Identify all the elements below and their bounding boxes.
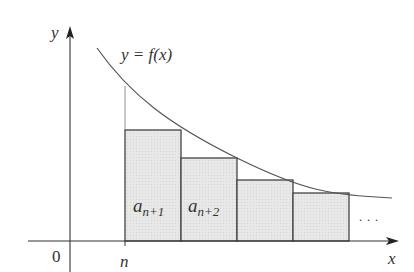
- n-label: n: [120, 252, 129, 271]
- origin-label: 0: [52, 247, 61, 266]
- rectangles: [125, 130, 349, 241]
- rectangle-1: [125, 130, 181, 241]
- y-axis-label: y: [49, 23, 59, 42]
- ellipsis: . . .: [359, 210, 379, 224]
- x-axis-label: x: [387, 249, 396, 268]
- rectangle-3: [237, 180, 293, 241]
- rectangle-4: [293, 193, 349, 241]
- curve-label: y = f(x): [119, 45, 172, 64]
- integral-test-diagram: y y = f(x) x 0 n an+1 an+2 . . .: [0, 0, 414, 272]
